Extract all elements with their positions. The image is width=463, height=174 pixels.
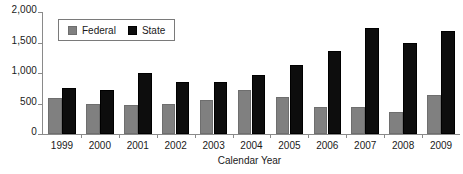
bar-federal-2008 (389, 112, 403, 134)
bar-chart: 05001,0001,5002,000 19992000200120022003… (0, 0, 463, 174)
bar-state-2005 (290, 65, 304, 134)
bar-state-2006 (328, 51, 342, 134)
bar-state-2004 (252, 75, 266, 134)
bar-federal-2007 (351, 107, 365, 134)
bar-state-2008 (403, 43, 417, 134)
x-axis-tick-mark (233, 134, 234, 138)
legend-entry-state: State (128, 25, 165, 36)
x-axis-tick-label-2004: 2004 (233, 140, 271, 152)
bar-federal-2003 (200, 100, 214, 134)
x-axis-tick-label-2003: 2003 (195, 140, 233, 152)
legend-label-federal: Federal (82, 25, 116, 36)
y-axis-tick-label: 2,000 (11, 5, 37, 15)
x-axis-tick-mark (157, 134, 158, 138)
x-axis-tick-mark (308, 134, 309, 138)
bar-state-2001 (138, 73, 152, 134)
y-axis-tick-label: 1,500 (11, 36, 37, 46)
bar-federal-2005 (276, 97, 290, 134)
bar-federal-2000 (86, 104, 100, 134)
state-swatch-icon (128, 26, 137, 35)
x-axis-tick-mark (119, 134, 120, 138)
bar-state-1999 (62, 88, 76, 134)
bar-federal-2009 (427, 95, 441, 134)
chart-legend: Federal State (58, 19, 175, 41)
x-axis-title: Calendar Year (0, 155, 463, 167)
bar-state-2007 (365, 28, 379, 134)
bar-state-2000 (100, 90, 114, 134)
x-axis-tick-label-2005: 2005 (270, 140, 308, 152)
bar-federal-1999 (48, 98, 62, 134)
x-axis-tick-label-2007: 2007 (346, 140, 384, 152)
x-axis-tick-label-2001: 2001 (119, 140, 157, 152)
x-axis-tick-label-2006: 2006 (308, 140, 346, 152)
x-axis-tick-mark (81, 134, 82, 138)
bar-state-2003 (214, 82, 228, 134)
bar-federal-2001 (124, 105, 138, 134)
x-axis-line (42, 134, 460, 135)
bar-federal-2002 (162, 104, 176, 134)
federal-swatch-icon (68, 26, 77, 35)
y-axis-tick-label: 500 (20, 97, 37, 107)
x-axis-tick-mark (195, 134, 196, 138)
x-axis-tick-mark (346, 134, 347, 138)
x-axis-tick-label-2008: 2008 (384, 140, 422, 152)
bar-state-2009 (441, 31, 455, 134)
x-axis-tick-label-2009: 2009 (422, 140, 460, 152)
x-axis-tick-mark (384, 134, 385, 138)
bar-federal-2006 (314, 107, 328, 134)
x-axis-tick-label-1999: 1999 (43, 140, 81, 152)
x-axis-tick-mark (422, 134, 423, 138)
bar-federal-2004 (238, 90, 252, 134)
x-axis-tick-label-2000: 2000 (81, 140, 119, 152)
bar-state-2002 (176, 82, 190, 134)
x-axis-tick-label-2002: 2002 (157, 140, 195, 152)
y-axis-tick-label: 0 (31, 127, 37, 137)
y-axis-tick-label: 1,000 (11, 66, 37, 76)
legend-label-state: State (142, 25, 165, 36)
x-axis-tick-mark (270, 134, 271, 138)
legend-entry-federal: Federal (68, 25, 116, 36)
